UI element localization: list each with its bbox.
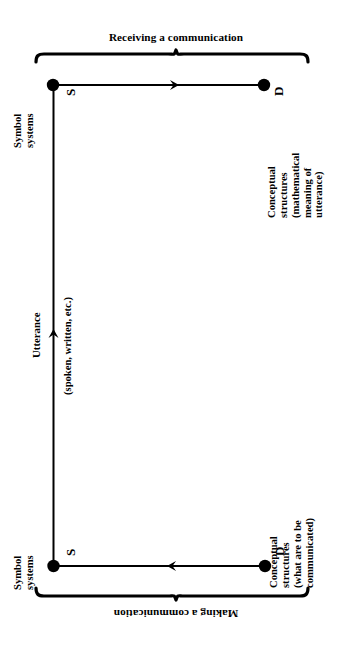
node-dot-d-top: [258, 79, 270, 91]
caption-line: Symbol: [12, 113, 24, 148]
caption-utterance-modes: (spoken, written, etc.): [62, 297, 74, 395]
vertical-edge-arrow: [49, 85, 59, 566]
top-brace: [36, 50, 308, 62]
caption-line: Symbol: [12, 555, 24, 590]
caption-line: structures: [280, 518, 292, 588]
bottom-brace: [36, 588, 308, 600]
node-label-d-top: D: [272, 87, 287, 96]
caption-conceptual-structures-top: Conceptual structures (mathematical mean…: [266, 153, 325, 218]
section-title-making: Making a communication: [114, 608, 239, 621]
node-dot-s-top: [47, 79, 59, 91]
caption-line: utterance): [313, 153, 325, 218]
node-label-s-bottom: S: [64, 549, 79, 556]
diagram-canvas: Receiving a communication Making a commu…: [0, 0, 352, 650]
node-dot-s-bottom: [47, 560, 59, 572]
top-edge-arrow: [53, 80, 263, 90]
caption-conceptual-structures-bottom: Conceptual structures (what are to be co…: [268, 518, 315, 588]
caption-line: systems: [24, 555, 36, 590]
bottom-edge-arrow: [54, 561, 264, 571]
caption-line: communicated): [304, 518, 316, 588]
caption-symbol-systems-top: Symbol systems: [12, 113, 36, 148]
caption-line: Conceptual: [268, 518, 280, 588]
caption-line: systems: [24, 113, 36, 148]
caption-line: structures: [278, 153, 290, 218]
section-title-receiving: Receiving a communication: [109, 31, 243, 44]
caption-line: meaning of: [302, 153, 314, 218]
node-label-s-top: S: [64, 89, 79, 96]
caption-line: Conceptual: [266, 153, 278, 218]
caption-utterance: Utterance: [30, 312, 42, 358]
caption-line: (what are to be: [292, 518, 304, 588]
caption-line: (mathematical: [290, 153, 302, 218]
caption-symbol-systems-bottom: Symbol systems: [12, 555, 36, 590]
